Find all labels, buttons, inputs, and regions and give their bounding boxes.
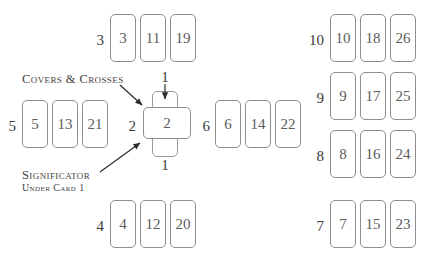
card-position-17[interactable]: 17 (360, 72, 386, 120)
step-label-top-1: 1 (152, 70, 178, 85)
step-label-left-2: 2 (122, 119, 136, 134)
annotation-covers-crosses: Covers & Crosses (22, 72, 124, 87)
tarot-spread-diagram: 3 3 11 19 5 5 13 21 1 2 1 2 6 6 14 22 4 … (0, 0, 433, 254)
card-position-21[interactable]: 21 (82, 100, 108, 148)
group-label-top-row: 3 (90, 33, 104, 48)
card-position-26[interactable]: 26 (390, 14, 416, 62)
card-position-25[interactable]: 25 (390, 72, 416, 120)
card-position-13[interactable]: 13 (52, 100, 78, 148)
card-position-6[interactable]: 6 (215, 100, 241, 148)
card-position-5[interactable]: 5 (22, 100, 48, 148)
arrow-covers-crosses (120, 85, 142, 105)
card-position-9[interactable]: 9 (330, 72, 356, 120)
card-position-8[interactable]: 8 (330, 130, 356, 178)
group-label-staff-row-8: 8 (304, 149, 324, 164)
card-position-7[interactable]: 7 (330, 200, 356, 248)
card-position-24[interactable]: 24 (390, 130, 416, 178)
group-label-staff-row-9: 9 (304, 91, 324, 106)
card-position-15[interactable]: 15 (360, 200, 386, 248)
card-position-22[interactable]: 22 (275, 100, 301, 148)
card-position-16[interactable]: 16 (360, 130, 386, 178)
arrow-significator (100, 143, 140, 172)
annotation-significator: Significator (22, 168, 90, 183)
group-label-middle-right-row: 6 (196, 119, 210, 134)
annotation-significator-sublabel: Under Card 1 (22, 182, 85, 193)
card-position-10[interactable]: 10 (330, 14, 356, 62)
group-label-staff-row-7: 7 (304, 219, 324, 234)
card-position-18[interactable]: 18 (360, 14, 386, 62)
card-position-2-horizontal[interactable]: 2 (143, 107, 191, 139)
card-position-4[interactable]: 4 (110, 200, 136, 248)
card-position-12[interactable]: 12 (140, 200, 166, 248)
card-position-23[interactable]: 23 (390, 200, 416, 248)
group-label-bottom-row: 4 (90, 219, 104, 234)
card-position-3[interactable]: 3 (110, 14, 136, 62)
card-position-11[interactable]: 11 (140, 14, 166, 62)
card-position-19[interactable]: 19 (170, 14, 196, 62)
card-position-20[interactable]: 20 (170, 200, 196, 248)
group-label-staff-row-10: 10 (304, 33, 324, 48)
card-position-14[interactable]: 14 (245, 100, 271, 148)
step-label-bottom-1: 1 (152, 158, 178, 173)
group-label-left-row: 5 (2, 119, 16, 134)
